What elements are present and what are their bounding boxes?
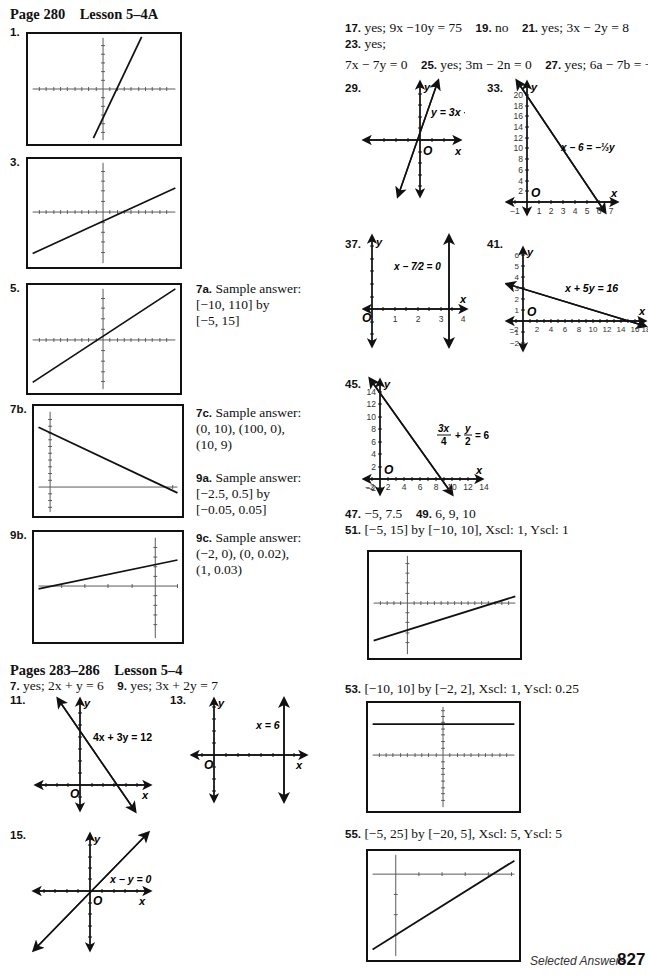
problem-label: 7b. bbox=[10, 403, 27, 415]
svg-text:18: 18 bbox=[514, 101, 524, 111]
svg-text:3: 3 bbox=[515, 284, 520, 293]
equation-label: x − y = 0 bbox=[109, 873, 152, 885]
svg-text:−2: −2 bbox=[510, 339, 520, 348]
svg-text:y: y bbox=[423, 81, 431, 93]
equation-label: 4x + 3y = 12 bbox=[93, 731, 152, 743]
svg-text:6: 6 bbox=[518, 165, 523, 175]
svg-text:8: 8 bbox=[434, 482, 439, 492]
svg-text:y: y bbox=[217, 697, 225, 709]
problem-label: 3. bbox=[10, 156, 20, 168]
equation-label: x = 6 bbox=[255, 719, 280, 731]
problem-label: 41. bbox=[487, 238, 503, 250]
svg-text:8: 8 bbox=[371, 424, 376, 434]
answer-line-23: 23. yes; bbox=[345, 36, 386, 52]
svg-text:2: 2 bbox=[535, 325, 540, 334]
svg-text:7: 7 bbox=[609, 206, 614, 216]
svg-text:10: 10 bbox=[367, 412, 377, 422]
svg-text:1: 1 bbox=[393, 314, 398, 324]
svg-text:5: 5 bbox=[585, 206, 590, 216]
svg-text:12: 12 bbox=[603, 325, 612, 334]
svg-text:16: 16 bbox=[514, 111, 524, 121]
svg-text:14: 14 bbox=[514, 122, 524, 132]
problem-label: 5. bbox=[10, 282, 20, 294]
svg-text:2: 2 bbox=[515, 295, 520, 304]
svg-text:y: y bbox=[464, 423, 471, 434]
origin-label: O bbox=[70, 787, 80, 801]
svg-text:12: 12 bbox=[514, 133, 524, 143]
svg-text:8: 8 bbox=[577, 325, 582, 334]
graph-plot: y O x x = 6 bbox=[190, 695, 312, 805]
svg-text:5: 5 bbox=[515, 262, 520, 271]
svg-text:y: y bbox=[383, 378, 391, 390]
svg-text:−2: −2 bbox=[509, 325, 519, 334]
svg-text:O: O bbox=[384, 463, 394, 477]
answer-line-23-27: 7x − 7y = 0 25. yes; 3m − 2n = 0 27. yes… bbox=[345, 57, 648, 73]
problem-label: 9b. bbox=[10, 529, 27, 541]
svg-text:2: 2 bbox=[371, 462, 376, 472]
graph-plot bbox=[28, 159, 180, 267]
equation-label: 3x 4 + y 2 = 6 bbox=[437, 423, 490, 447]
answer-9c: 9c. Sample answer: (−2, 0), (0, 0.02), (… bbox=[196, 530, 301, 578]
graph-13: y O x x = 6 bbox=[190, 695, 312, 805]
svg-text:8: 8 bbox=[518, 154, 523, 164]
graph-plot bbox=[28, 285, 180, 393]
graph-37: 1234 y O x x − 7⁄2 = 0 bbox=[362, 232, 472, 350]
svg-text:3x: 3x bbox=[438, 423, 450, 434]
svg-text:18: 18 bbox=[642, 325, 648, 334]
svg-text:= 6: = 6 bbox=[475, 430, 490, 441]
answer-line-51: 51. [−5, 15] by [−10, 10], Xscl: 1, Yscl… bbox=[345, 522, 569, 538]
svg-text:10: 10 bbox=[589, 325, 598, 334]
problem-label: 15. bbox=[10, 829, 26, 841]
svg-text:O: O bbox=[204, 758, 214, 772]
problem-label: 13. bbox=[170, 694, 186, 706]
equation-label: y = 3x + 1 bbox=[430, 106, 465, 118]
graph-33: 2468101214161820 −11234567 y O x x − 6 =… bbox=[505, 78, 648, 218]
graph-41: −2−1123456 −224681012141618 y O x x + 5y… bbox=[505, 244, 648, 354]
footer-section-label: Selected Answers bbox=[530, 954, 626, 968]
svg-text:4: 4 bbox=[549, 325, 554, 334]
answer-line-47-49: 47. −5, 7.5 49. 6, 9, 10 bbox=[345, 506, 476, 522]
calculator-screen-3 bbox=[26, 157, 182, 269]
graph-15: y O x x − y = 0 bbox=[30, 830, 155, 955]
svg-text:O: O bbox=[362, 311, 372, 325]
svg-text:14: 14 bbox=[479, 482, 489, 492]
svg-text:x: x bbox=[459, 293, 467, 305]
svg-text:y: y bbox=[375, 236, 383, 248]
problem-label: 33. bbox=[487, 82, 503, 94]
answer-line-53: 53. [−10, 10] by [−2, 2], Xscl: 1, Yscl:… bbox=[345, 681, 579, 697]
y-axis-label: y bbox=[83, 697, 91, 709]
svg-text:14: 14 bbox=[367, 387, 377, 397]
svg-text:4: 4 bbox=[515, 273, 520, 282]
svg-text:y: y bbox=[530, 81, 538, 93]
calculator-screen-5 bbox=[26, 283, 182, 395]
svg-text:4: 4 bbox=[573, 206, 578, 216]
graph-plot bbox=[368, 851, 519, 960]
calculator-screen-55 bbox=[366, 849, 521, 962]
problem-label: 1. bbox=[10, 26, 20, 38]
svg-text:2: 2 bbox=[416, 314, 421, 324]
graph-plot: y O x 4x + 3y = 12 bbox=[30, 695, 160, 815]
svg-text:3: 3 bbox=[439, 314, 444, 324]
svg-text:6: 6 bbox=[418, 482, 423, 492]
svg-text:x: x bbox=[475, 464, 483, 476]
graph-29: y O x y = 3x + 1 bbox=[360, 78, 465, 200]
graph-plot bbox=[34, 532, 182, 642]
answer-line-55: 55. [−5, 25] by [−20, 5], Xscl: 5, Yscl:… bbox=[345, 826, 562, 842]
section-heading-lesson-5-4a: Page 280 Lesson 5–4A bbox=[10, 6, 158, 23]
svg-text:4: 4 bbox=[461, 314, 466, 324]
answer-line-17-21: 17. yes; 9x −10y = 75 19. no 21. yes; 3x… bbox=[345, 20, 629, 36]
graph-plot: −2−1123456 −224681012141618 y O x x + 5y… bbox=[505, 244, 648, 354]
svg-text:x: x bbox=[610, 187, 618, 199]
equation-label: x − 7⁄2 = 0 bbox=[393, 261, 441, 272]
svg-text:3: 3 bbox=[561, 206, 566, 216]
svg-text:4: 4 bbox=[518, 176, 523, 186]
problem-label: 45. bbox=[345, 378, 361, 390]
answer-9a: 9a. Sample answer: [−2.5, 0.5] by [−0.05… bbox=[196, 470, 301, 518]
svg-text:+: + bbox=[455, 430, 461, 441]
svg-text:O: O bbox=[423, 144, 433, 158]
svg-text:x: x bbox=[454, 145, 462, 157]
equation-label: x − 6 = −⅓y bbox=[560, 142, 615, 153]
svg-text:4: 4 bbox=[441, 436, 447, 447]
answer-7a: 7a. Sample answer: [−10, 110] by [−5, 15… bbox=[196, 281, 301, 329]
problem-label: 29. bbox=[345, 82, 361, 94]
